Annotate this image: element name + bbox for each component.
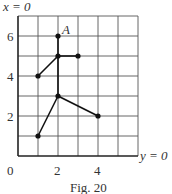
left-tick-2: 2	[7, 109, 14, 124]
graph-edges	[38, 36, 98, 136]
figure-caption: Fig. 20	[70, 180, 107, 194]
node	[55, 53, 60, 58]
node	[55, 93, 60, 98]
point-a-label: A	[61, 22, 70, 37]
y-axis-label: y = 0	[138, 148, 168, 163]
node-a	[55, 33, 60, 38]
x-axis-label: x = 0	[2, 0, 31, 14]
left-tick-4: 4	[7, 69, 14, 84]
left-tick-6: 6	[7, 29, 14, 44]
node	[75, 53, 80, 58]
bottom-tick-2: 2	[54, 163, 61, 178]
origin-label: 0	[7, 163, 14, 178]
bottom-tick-4: 4	[94, 163, 101, 178]
node	[35, 73, 40, 78]
figure-canvas: A x = 0 y = 0 0 2 4 6 2 4 Fig. 20	[0, 0, 172, 194]
node	[35, 133, 40, 138]
node	[95, 113, 100, 118]
